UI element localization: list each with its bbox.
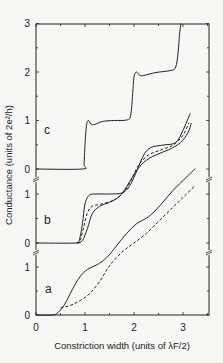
curve-b-dashed bbox=[76, 123, 189, 243]
y-tick-label: 0 bbox=[24, 310, 30, 321]
y-tick-label: 1 bbox=[24, 115, 30, 126]
y-tick-label: 0 bbox=[24, 238, 30, 249]
curve-a-dashed bbox=[61, 185, 196, 307]
panel-label-b: b bbox=[44, 213, 51, 227]
panel-label-c: c bbox=[44, 123, 50, 137]
x-axis-title: Constriction width (units of λF/2) bbox=[54, 340, 190, 351]
x-tick-label: 2 bbox=[131, 322, 137, 333]
x-tick-label: 0 bbox=[33, 322, 39, 333]
conductance-chart: 01230123c01b01a Constriction width (unit… bbox=[0, 0, 223, 363]
y-axis-title: Conductance (units of 2e²/h) bbox=[3, 105, 14, 225]
x-tick-label: 3 bbox=[180, 322, 186, 333]
curve-a-solid bbox=[36, 169, 195, 316]
x-tick-label: 1 bbox=[82, 322, 88, 333]
y-tick-label: 1 bbox=[24, 262, 30, 273]
y-tick-label: 2 bbox=[24, 67, 30, 78]
y-tick-label: 0 bbox=[24, 164, 30, 175]
curve-c-solid bbox=[36, 24, 181, 170]
y-tick-label: 1 bbox=[24, 189, 30, 200]
panel-label-a: a bbox=[45, 282, 52, 296]
y-tick-label: 3 bbox=[24, 18, 30, 29]
curve-b-solid-1 bbox=[36, 113, 190, 243]
